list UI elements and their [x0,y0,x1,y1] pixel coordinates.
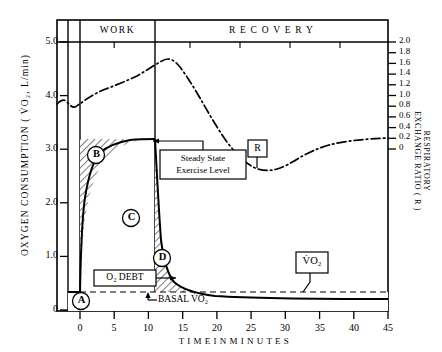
bottom-tick-label-15: 15 [173,322,193,333]
right-tick-label-0-6: 0.6 [399,110,410,120]
right-tick-label-1-4: 1.4 [399,67,410,77]
chart-svg [0,0,442,352]
right-tick-label-0-4: 0.4 [399,121,410,131]
r-marker-label: R [248,142,267,153]
vo2-marker-label: V̇O₂ [296,255,328,266]
o2-debt-label: O₂ DEBT [94,272,156,282]
left-tick-label-2: 2.0 [30,196,58,207]
bottom-tick-label-0: 0 [70,322,90,333]
y-axis-right-title-line2: EXCHANGE RATIO ( R ) [413,36,422,286]
x-axis-title: T I M E I N M I N U T E S [80,336,388,346]
right-tick-label-0: 0 [399,142,404,152]
bottom-tick-label-30: 30 [275,322,295,333]
right-axis-ticks [388,42,396,149]
region-label-b: B [88,148,105,159]
right-tick-label-1-8: 1.8 [399,46,410,56]
right-tick-label-1-2: 1.2 [399,78,410,88]
left-axis-ticks [60,42,68,310]
figure-oxygen-consumption: OXYGEN CONSUMPTION ( V̇O₂, L/min) RESPIR… [0,0,442,352]
band-label-recovery: R E C O V E R Y [155,25,388,35]
bottom-tick-label-45: 45 [378,322,398,333]
right-tick-label-0-8: 0.8 [399,99,410,109]
bottom-tick-label-20: 20 [207,322,227,333]
band-ticks [114,42,340,48]
right-tick-label-2-0: 2.0 [399,35,410,45]
right-tick-label-1-6: 1.6 [399,57,410,67]
y-axis-right-title-line1: RESPIRATORY [422,36,431,286]
bottom-tick-label-5: 5 [104,322,124,333]
y-axis-right-title: RESPIRATORY EXCHANGE RATIO ( R ) [413,36,431,286]
right-tick-label-1-0: 1.0 [399,89,410,99]
left-tick-label-1: 1.0 [30,249,58,260]
right-tick-label-0-2: 0.2 [399,131,410,141]
bottom-tick-label-35: 35 [310,322,330,333]
bottom-tick-label-25: 25 [241,322,261,333]
region-label-c: C [123,211,140,222]
region-label-a: A [73,294,90,305]
basal-vo2-label: BASAL V̇O₂ [158,294,208,304]
left-tick-label-0: 0 [30,303,58,314]
region-label-d: D [154,251,171,262]
left-tick-label-3: 3.0 [30,142,58,153]
steady-state-label-line1: Steady State [160,153,246,163]
left-tick-label-4: 4.0 [30,89,58,100]
y-axis-left-title: OXYGEN CONSUMPTION ( V̇O₂, L/min) [20,10,30,300]
bottom-axis-ticks [80,311,388,319]
bottom-tick-label-10: 10 [138,322,158,333]
left-tick-label-5: 5.0 [30,35,58,46]
steady-state-label-line2: Exercise Level [160,165,246,175]
bottom-tick-label-40: 40 [344,322,364,333]
region-a-basal-band [68,292,388,311]
band-label-work: WORK [80,25,155,35]
